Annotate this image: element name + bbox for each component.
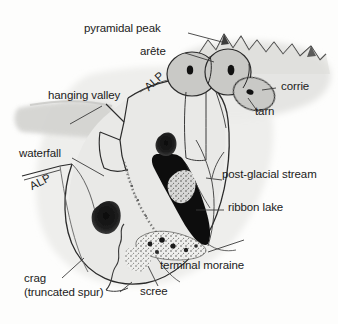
glacial-landscape-diagram: pyramidal peak arête corrie tarn hanging… [0,0,338,324]
label-scree: scree [140,285,168,298]
label-hanging-valley: hanging valley [48,89,120,102]
leader-pyramidal-peak [188,33,222,42]
label-tarn: tarn [255,105,274,118]
label-arete: arête [140,45,166,58]
label-crag-line1: crag [24,272,46,284]
label-waterfall: waterfall [19,147,61,160]
label-terminal-moraine: terminal moraine [160,259,244,272]
label-post-glacial-stream: post-glacial stream [222,168,317,181]
label-ribbon-lake: ribbon lake [228,201,283,214]
label-crag: crag (truncated spur) [24,272,104,299]
tarn-spot-1 [187,65,193,74]
label-corrie: corrie [281,80,309,93]
tarn-spot-2 [228,65,235,75]
label-crag-line2: (truncated spur) [24,286,104,298]
label-pyramidal-peak: pyramidal peak [84,22,161,35]
